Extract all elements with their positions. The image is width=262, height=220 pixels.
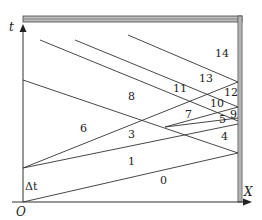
- delta-t-label: Δt: [25, 180, 38, 193]
- arrow-right-icon: [243, 199, 252, 206]
- region-1-label: 1: [128, 155, 135, 168]
- region-4-label: 4: [221, 130, 228, 143]
- right-wall: [238, 16, 242, 202]
- t-axis: [20, 24, 27, 202]
- region-14-label: 14: [215, 47, 229, 60]
- region-13-label: 13: [199, 72, 213, 85]
- region-9-label: 9: [230, 108, 237, 121]
- region-0-label: 0: [160, 174, 167, 187]
- region-5-label: 5: [219, 113, 226, 126]
- x-axis: [12, 199, 252, 206]
- wave-diagram: t X O Δt 0 1 3 4 5 6 7 8 9 10 11 12 13 1…: [0, 0, 262, 220]
- wave-lines: [23, 35, 238, 202]
- region-7-label: 7: [185, 108, 192, 121]
- region-6-label: 6: [80, 122, 87, 135]
- region-10-label: 10: [210, 97, 224, 110]
- origin-label: O: [16, 205, 26, 219]
- top-wall: [23, 16, 242, 22]
- region-8-label: 8: [128, 90, 135, 103]
- x-axis-label: X: [243, 185, 253, 199]
- arrow-up-icon: [20, 24, 27, 32]
- region-12-label: 12: [224, 86, 238, 99]
- diagram-canvas: t X O Δt 0 1 3 4 5 6 7 8 9 10 11 12 13 1…: [0, 0, 262, 220]
- region-3-label: 3: [128, 128, 135, 141]
- region-11-label: 11: [173, 82, 187, 95]
- t-axis-label: t: [9, 20, 14, 34]
